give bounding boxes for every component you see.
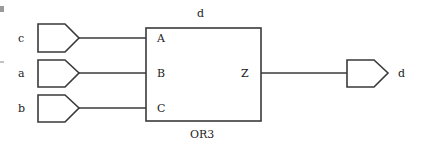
- input-port-shape: [38, 95, 79, 122]
- edge-artifact: [0, 6, 4, 12]
- input-port-label: c: [18, 32, 24, 45]
- output-port-label: d: [398, 67, 405, 80]
- input-port-label: a: [18, 67, 25, 80]
- or3-block[interactable]: d A B C Z OR3: [146, 7, 261, 141]
- pin-Z-label: Z: [241, 67, 249, 80]
- block-type-label: OR3: [190, 128, 214, 141]
- input-port-shape: [38, 24, 79, 52]
- pin-C-label: C: [157, 102, 165, 115]
- pin-B-label: B: [157, 67, 165, 80]
- input-port-c[interactable]: c: [18, 24, 146, 52]
- output-port-shape: [347, 60, 388, 87]
- input-port-a[interactable]: a: [18, 60, 146, 87]
- input-port-b[interactable]: b: [18, 95, 146, 122]
- schematic: c a b d A B C Z OR3 d: [0, 0, 428, 143]
- input-port-label: b: [18, 102, 25, 115]
- input-port-shape: [38, 60, 79, 87]
- output-port-d[interactable]: d: [347, 60, 405, 87]
- block-instance-label: d: [197, 7, 204, 20]
- pin-A-label: A: [156, 32, 166, 45]
